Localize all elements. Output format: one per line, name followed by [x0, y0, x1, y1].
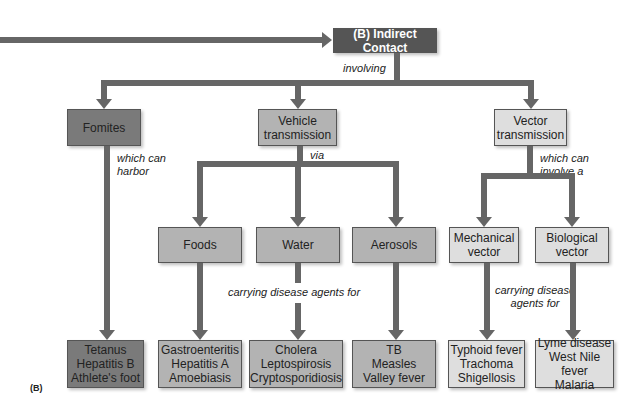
figure-caption: (B) [30, 383, 43, 393]
aerosols-arrowhead [388, 217, 404, 227]
vector-bar [481, 173, 575, 179]
vector-stem [527, 146, 533, 176]
diseases-fomites: Tetanus Hepatitis B Athlete's foot [67, 340, 144, 388]
incoming-arrowhead [322, 32, 332, 48]
water-arrowhead [290, 217, 306, 227]
label-which-can-harbor: which can harbor [117, 152, 166, 178]
aerosols-stem [393, 263, 399, 331]
biological-drop [569, 173, 575, 218]
water-stem-top [295, 263, 301, 283]
diseases-aerosols: TB Measles Valley fever [352, 340, 436, 388]
node-vehicle-transmission: Vehicle transmission [258, 109, 337, 146]
foods-stem [197, 263, 203, 331]
vehicle-arrowhead [290, 99, 306, 109]
label-carrying-vehicle: carrying disease agents for [228, 286, 360, 299]
fomites-stem [104, 146, 110, 331]
foods-drop [197, 161, 203, 218]
root-node-indirect-contact: (B) Indirect Contact [333, 28, 437, 53]
node-foods: Foods [158, 227, 242, 263]
aerosols-diseases-arrowhead [388, 330, 404, 340]
incoming-connector [0, 37, 322, 43]
aerosols-drop [393, 161, 399, 218]
foods-diseases-arrowhead [192, 330, 208, 340]
biological-stem [570, 263, 576, 331]
diseases-biological: Lyme disease West Nile fever Malaria [535, 340, 614, 388]
node-vector-transmission: Vector transmission [494, 109, 567, 146]
mechanical-arrowhead [476, 217, 492, 227]
water-diseases-arrowhead [290, 330, 306, 340]
vehicle-drop [295, 80, 301, 100]
level1-bar [101, 80, 534, 86]
label-carrying-vector: carrying disease agents for [495, 284, 575, 310]
node-mechanical-vector: Mechanical vector [449, 227, 519, 263]
diseases-foods: Gastroenteritis Hepatitis A Amoebiasis [158, 340, 242, 388]
mechanical-stem [484, 263, 490, 331]
mechanical-diseases-arrowhead [479, 330, 495, 340]
biological-arrowhead [564, 217, 580, 227]
label-involving: involving [343, 62, 386, 75]
diseases-water: Cholera Leptospirosis Cryptosporidiosis [249, 340, 343, 388]
mechanical-drop [481, 173, 487, 218]
fomites-drop [101, 80, 107, 100]
vector-arrowhead [523, 99, 539, 109]
water-stem-bottom [295, 303, 301, 331]
node-aerosols: Aerosols [352, 227, 436, 263]
node-biological-vector: Biological vector [535, 227, 609, 263]
node-water: Water [256, 227, 340, 263]
water-drop [295, 161, 301, 218]
fomites-arrowhead [96, 99, 112, 109]
vector-drop [528, 80, 534, 100]
foods-arrowhead [192, 217, 208, 227]
fomites-diseases-arrowhead [99, 330, 115, 340]
node-fomites: Fomites [67, 109, 141, 146]
diseases-mechanical: Typhoid fever Trachoma Shigellosis [448, 340, 525, 388]
